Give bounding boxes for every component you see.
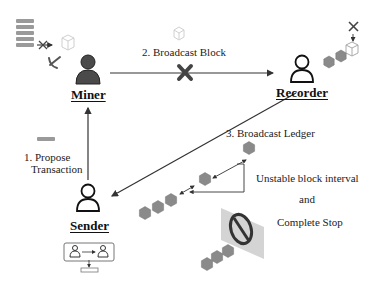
rejected-cross-icon xyxy=(349,22,358,31)
recorder-label: Recorder xyxy=(276,85,328,101)
cross-arrow-icon xyxy=(37,41,52,49)
cube-icon xyxy=(346,42,358,56)
interval-arrow-1 xyxy=(213,160,246,178)
broadcast-block-label: 2. Broadcast Block xyxy=(142,46,226,58)
diagram-canvas: 2. Broadcast Block Miner Recorder 1. Pro… xyxy=(0,0,373,293)
transaction-transfer-icon xyxy=(64,243,114,272)
broadcast-ledger-label: 3. Broadcast Ledger xyxy=(226,127,315,139)
annotation-line3: Complete Stop xyxy=(277,216,343,228)
hexagon-block-icon xyxy=(324,56,334,68)
annotation-line2: and xyxy=(299,193,315,205)
recorder-user-icon xyxy=(291,56,313,83)
miner-user-icon xyxy=(76,55,100,84)
interval-bracket xyxy=(190,164,244,192)
ledger-stack-icon xyxy=(16,19,34,47)
hexagon-block-icon xyxy=(222,245,233,258)
hexagon-block-icon xyxy=(165,194,176,207)
annotation-line1: Unstable block interval xyxy=(256,172,359,184)
cube-icon xyxy=(62,35,74,50)
hexagon-block-icon xyxy=(152,201,163,214)
propose-label-line2: Transaction xyxy=(31,163,83,175)
pickaxe-icon xyxy=(49,57,60,68)
hexagon-block-icon xyxy=(336,50,346,62)
diagram-svg xyxy=(0,0,373,293)
sender-label: Sender xyxy=(70,218,109,234)
stopped-block-chain xyxy=(201,245,233,271)
ledger-block-chain xyxy=(139,142,254,220)
cube-icon xyxy=(174,27,184,40)
hexagon-block-icon xyxy=(211,251,222,264)
hexagon-block-icon xyxy=(201,258,212,271)
hexagon-block-icon xyxy=(139,207,150,220)
hexagon-block-icon xyxy=(199,173,210,186)
propose-label-line1: 1. Propose xyxy=(24,151,70,163)
sender-user-icon xyxy=(77,185,99,212)
interval-arrow-2 xyxy=(180,186,194,194)
transaction-icon xyxy=(37,137,55,141)
miner-label: Miner xyxy=(71,87,106,103)
hexagon-block-icon xyxy=(243,142,254,155)
recorder-block-chain xyxy=(324,50,346,68)
